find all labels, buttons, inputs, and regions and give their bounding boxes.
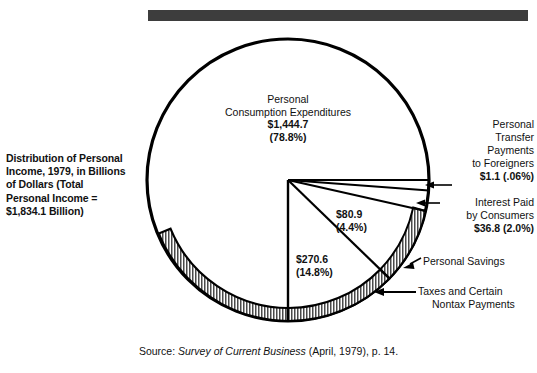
ptf-amount: $1.1 (.06%)	[456, 170, 534, 183]
label-interest-paid-by-consumers: Interest Paid by Consumers $36.8 (2.0%)	[424, 196, 534, 235]
ipc-line-2: by Consumers	[424, 209, 534, 222]
caption-line-2: Income, 1979, in Billions	[6, 165, 164, 178]
pce-line-1: Personal	[198, 93, 378, 106]
caption-line-1: Distribution of Personal	[6, 152, 164, 165]
figure-caption: Distribution of Personal Income, 1979, i…	[6, 152, 164, 218]
tcnp-line-1: Taxes and Certain	[418, 285, 537, 298]
tcnp-line-2: Nontax Payments	[418, 298, 537, 311]
source-suffix: (April, 1979), p. 14.	[306, 345, 398, 357]
source-title: Survey of Current Business	[178, 345, 306, 357]
pce-percent: (78.8%)	[198, 131, 378, 144]
label-personal-savings-value: $80.9 (4.4%)	[336, 208, 396, 233]
pce-value: $1,444.7	[198, 118, 378, 131]
label-personal-transfer-payments: Personal Transfer Payments to Foreigners…	[456, 118, 534, 183]
caption-line-3: of Dollars (Total	[6, 178, 164, 191]
label-personal-savings-name: Personal Savings	[423, 255, 535, 268]
ptf-line-3: Payments	[456, 144, 534, 157]
leader-arrow-taxes	[374, 288, 384, 296]
label-taxes-nontax-payments: Taxes and Certain Nontax Payments	[418, 285, 537, 311]
label-taxes-value: $270.6 (14.8%)	[296, 253, 366, 278]
header-rule-bar	[148, 10, 528, 21]
ipc-line-1: Interest Paid	[424, 196, 534, 209]
pce-line-2: Consumption Expenditures	[198, 106, 378, 119]
leader-personal-savings	[410, 258, 421, 264]
ptf-line-4: to Foreigners	[456, 157, 534, 170]
source-prefix: Source:	[139, 345, 178, 357]
caption-line-5: $1,834.1 Billion)	[6, 205, 164, 218]
leader-arrow-personal-transfer	[425, 182, 434, 189]
taxes-amount: $270.6	[296, 253, 366, 266]
source-note: Source: Survey of Current Business (Apri…	[0, 345, 537, 357]
taxes-ring-band	[159, 229, 288, 321]
separator-savings-interest	[288, 180, 426, 211]
savings-amount: $80.9	[336, 208, 396, 221]
pie-outline	[147, 39, 429, 321]
taxes-percent: (14.8%)	[296, 266, 366, 279]
label-personal-consumption-expenditures: Personal Consumption Expenditures $1,444…	[198, 93, 378, 143]
caption-line-4: Personal Income =	[6, 192, 164, 205]
separator-interest-transfer	[288, 180, 429, 191]
savings-percent: (4.4%)	[336, 221, 396, 234]
ipc-amount: $36.8 (2.0%)	[424, 222, 534, 235]
ptf-line-1: Personal	[456, 118, 534, 131]
leader-arrow-personal-savings	[403, 263, 415, 270]
ptf-line-2: Transfer	[456, 131, 534, 144]
